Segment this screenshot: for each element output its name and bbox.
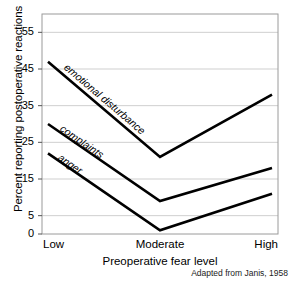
axis-tick-marks (38, 32, 42, 234)
y-tick-label: 15 (8, 172, 34, 184)
y-tick-label: 45 (8, 62, 34, 74)
y-tick-label: 5 (8, 209, 34, 221)
source-attribution: Adapted from Janis, 1958 (0, 268, 288, 278)
x-axis-title: Preoperative fear level (42, 255, 278, 267)
y-tick-label: 0 (8, 227, 34, 239)
gridlines (42, 32, 278, 215)
x-tick-label-low: Low (43, 238, 64, 250)
chart-figure: Percent reporting postoperative reaction… (0, 0, 296, 284)
x-tick-label-high: High (252, 238, 278, 250)
y-tick-label: 55 (8, 25, 34, 37)
y-tick-label: 35 (8, 99, 34, 111)
x-tick-label-moderate: Moderate (130, 238, 190, 250)
y-tick-label: 25 (8, 135, 34, 147)
